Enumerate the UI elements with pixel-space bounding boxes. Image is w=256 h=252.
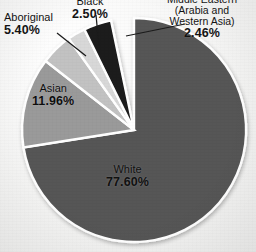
slice-label-black: Black 2.50%	[72, 0, 108, 21]
slice-label-white: White 77.60%	[106, 164, 149, 189]
slice-label-aboriginal-value: 5.40%	[4, 24, 53, 37]
slice-label-white-value: 77.60%	[106, 176, 149, 189]
slice-label-white-name: White	[106, 164, 149, 176]
slice-label-aboriginal: Aboriginal 5.40%	[4, 12, 53, 37]
slice-label-asian: Asian 11.96%	[32, 83, 74, 108]
slice-label-middle-eastern-value: 2.46%	[152, 27, 252, 40]
slice-label-asian-name: Asian	[32, 83, 74, 95]
slice-label-asian-value: 11.96%	[32, 95, 74, 108]
pie-chart-figure: Aboriginal 5.40% Black 2.50% Middle East…	[0, 0, 256, 252]
slice-label-black-value: 2.50%	[72, 8, 108, 21]
slice-label-middle-eastern: Middle Eastern (Arabia and Western Asia)…	[152, 0, 252, 41]
slice-label-aboriginal-name: Aboriginal	[4, 12, 53, 24]
